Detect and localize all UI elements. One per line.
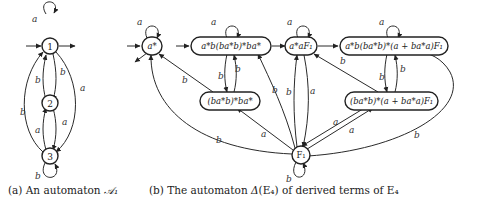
svg-text:1: 1 [47,42,53,52]
loop-s1 [146,26,159,38]
edge-s5-s6 [395,55,397,92]
edge-label: a [62,117,67,127]
edge-label: b [286,87,292,97]
edge-s6-s5 [385,54,387,92]
automaton-derived-terms: a a a a b b b b b a b b a b b [127,17,453,184]
edge-label: b [272,85,278,95]
edge-s7-s6 [304,108,373,151]
state-2: 2 [42,95,58,111]
caption-a-text: (a) An automaton [8,184,104,196]
edge-label: b [286,174,292,184]
state-1: 1 [42,38,58,54]
edge-s4-s7 [303,55,308,147]
edge-label: b [235,64,241,74]
final-arrow-s1 [135,53,147,62]
edge-label: b [216,135,222,145]
edge-label: a [261,129,266,139]
edge-label: b [379,72,385,82]
edge-label: b [60,67,66,77]
edge-label: b [182,75,188,85]
caption-b-rest: (E₄) of derived terms of E₄ [259,184,399,196]
edge-label: b [218,71,224,81]
svg-text:3: 3 [47,152,53,162]
svg-text:(ba*b)*ba*: (ba*b)*ba* [207,96,253,106]
edge-label: a [310,86,315,96]
edge-2-3 [53,108,56,150]
caption-a-symbol: 𝒜₁ [104,184,118,196]
edge-2-1 [43,55,46,100]
edge-s3-s1 [159,54,213,92]
edge-label: b [20,107,26,117]
loop-s2 [226,26,239,38]
state-F1: F₁ [292,146,310,164]
edge-label: a [137,17,142,27]
edge-label: a [35,125,40,135]
svg-text:2: 2 [47,99,53,109]
caption-b-delta: Δ [251,184,259,196]
edge-label: a [287,17,292,27]
edge-s6-s4 [314,54,378,92]
edge-3-3 [43,163,57,177]
edge-label: a [32,14,37,24]
caption-b: (b) The automaton Δ(E₄) of derived terms… [149,184,399,196]
edge-3-1 [24,52,43,152]
svg-text:F₁: F₁ [296,150,305,160]
edge-label: b [414,130,420,140]
caption-b-text: (b) The automaton [149,184,251,196]
edge-label: b [340,56,346,66]
svg-text:a*aF₁: a*aF₁ [289,41,312,51]
state-ba-star-b-star-ba-star: (ba*b)*ba* [200,92,260,110]
edge-label: b [35,171,41,181]
caption-a: (a) An automaton 𝒜₁ [8,184,118,197]
state-a-star-a-F1: a*aF₁ [285,37,317,55]
edge-label: a [349,125,354,135]
state-a-star-b-ba-star-b-star-a-plus-ba-star-a-F1: a*b(ba*b)*(a + ba*a)F₁ [340,37,448,55]
edge-label: a [379,17,384,27]
svg-text:a*b(ba*b)*ba*: a*b(ba*b)*ba* [201,41,262,51]
automaton-a1: a b b a b a a b 1 2 3 [20,2,85,181]
edge-label: a [211,17,216,27]
loop-s5 [387,26,400,38]
edge-label: b [35,75,41,85]
state-ba-star-b-star-a-plus-ba-star-a-F1: (ba*b)*(a + ba*a)F₁ [345,92,438,110]
svg-text:a*: a* [147,41,157,51]
loop-s4 [297,26,310,38]
edge-3-2 [43,108,46,150]
edge-1-2 [53,54,56,100]
state-a-star: a* [142,37,162,55]
edge-s3-s2 [225,54,227,92]
svg-text:a*b(ba*b)*(a + ba*a)F₁: a*b(ba*b)*(a + ba*a)F₁ [345,41,443,51]
edge-label: b [400,64,406,74]
diagram-canvas: a b b a b a a b 1 2 3 [0,0,477,205]
state-3: 3 [42,148,58,164]
edge-s7-s4 [294,55,297,147]
svg-text:(ba*b)*(a + ba*a)F₁: (ba*b)*(a + ba*a)F₁ [350,96,433,106]
state-a-star-b-ba-star-b-star-ba-star: a*b(ba*b)*ba* [191,37,271,55]
edge-1-1 [44,2,56,14]
edge-label: a [80,83,85,93]
